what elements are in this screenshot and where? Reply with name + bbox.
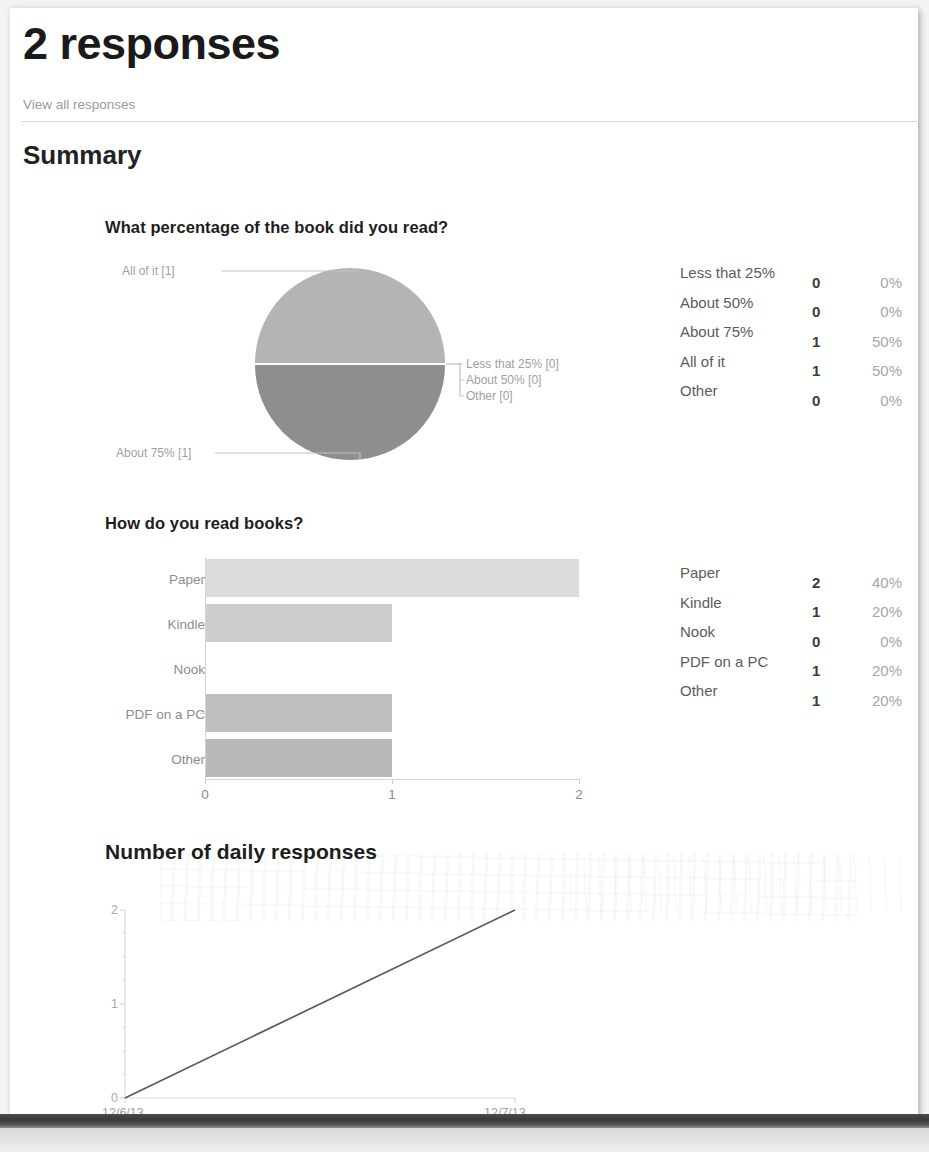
- pie-label-other: Other [0]: [466, 389, 513, 403]
- legend-row: Paper240%: [680, 558, 918, 588]
- legend-table-how-read: Paper240% Kindle120% Nook00% PDF on a PC…: [680, 558, 918, 706]
- legend-row: PDF on a PC120%: [680, 647, 918, 677]
- page-bottom-edge: [0, 1114, 929, 1128]
- legend-count: 1: [812, 686, 846, 716]
- bar-y-tick: [200, 713, 205, 714]
- bar-y-tick: [200, 623, 205, 624]
- bar-x-tick-label: 2: [575, 787, 583, 802]
- bar-x-tick: [205, 779, 206, 784]
- legend-row: Other00%: [680, 376, 918, 406]
- bar-y-tick: [200, 758, 205, 759]
- legend-label: PDF on a PC: [680, 647, 812, 677]
- legend-count: 0: [812, 386, 846, 416]
- legend-row: Less that 25%00%: [680, 258, 918, 288]
- legend-row: About 50%00%: [680, 288, 918, 318]
- bar-chart-y-axis: [205, 557, 206, 779]
- bar-x-tick-label: 1: [388, 787, 396, 802]
- page-bottom-shadow: [0, 1128, 929, 1152]
- legend-row: Kindle120%: [680, 588, 918, 618]
- bar-paper: [205, 559, 579, 597]
- legend-label: Paper: [680, 558, 812, 588]
- legend-label: Nook: [680, 617, 812, 647]
- pie-label-less-than-25: Less that 25% [0]: [466, 357, 559, 371]
- legend-label: About 50%: [680, 288, 812, 318]
- legend-label: Less that 25%: [680, 258, 812, 288]
- bar-kindle: [205, 604, 392, 642]
- bar-x-tick: [392, 779, 393, 784]
- bar-y-tick: [200, 668, 205, 669]
- legend-row: All of it150%: [680, 347, 918, 377]
- legend-row: Nook00%: [680, 617, 918, 647]
- legend-percent: 0%: [846, 386, 902, 416]
- legend-table-percentage-read: Less that 25%00% About 50%00% About 75%1…: [680, 258, 918, 406]
- bar-y-tick: [200, 578, 205, 579]
- pie-chart-svg: [10, 253, 670, 503]
- scan-bleed-artifact: [570, 856, 910, 912]
- line-y-tick-label: 1: [98, 997, 118, 1011]
- bar-x-tick-label: 0: [201, 787, 209, 802]
- legend-label: Kindle: [680, 588, 812, 618]
- bar-x-tick: [579, 779, 580, 784]
- bar-other: [205, 739, 392, 777]
- line-chart-svg: [100, 898, 620, 1118]
- legend-row: About 75%150%: [680, 317, 918, 347]
- line-y-tick-label: 2: [98, 903, 118, 917]
- bar-category-label: PDF on a PC: [30, 707, 205, 722]
- question-title-daily-responses: Number of daily responses: [105, 840, 377, 864]
- legend-label: Other: [680, 376, 812, 406]
- scanned-page: 2 responses View all responses Summary W…: [0, 0, 929, 1152]
- bar-pdf-on-a-pc: [205, 694, 392, 732]
- question-title-how-read: How do you read books?: [105, 514, 303, 533]
- legend-label: Other: [680, 676, 812, 706]
- pie-label-all-of-it: All of it [1]: [122, 264, 175, 278]
- pie-label-about-75: About 75% [1]: [116, 446, 191, 460]
- bar-category-label: Nook: [30, 662, 205, 677]
- pie-label-about-50: About 50% [0]: [466, 373, 541, 387]
- bar-category-label: Paper: [30, 572, 205, 587]
- legend-label: About 75%: [680, 317, 812, 347]
- bar-category-label: Other: [30, 752, 205, 767]
- legend-label: All of it: [680, 347, 812, 377]
- bar-category-label: Kindle: [30, 617, 205, 632]
- document-sheet: 2 responses View all responses Summary W…: [10, 8, 918, 1118]
- legend-percent: 20%: [846, 686, 902, 716]
- legend-row: Other120%: [680, 676, 918, 706]
- pie-chart-percentage-read: All of it [1] About 75% [1] Less that 25…: [10, 8, 670, 238]
- line-y-tick-label: 0: [98, 1091, 118, 1105]
